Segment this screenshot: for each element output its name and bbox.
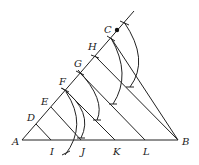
- label-h: H: [87, 41, 97, 52]
- arc-2: [111, 38, 122, 104]
- arc-3: [78, 70, 99, 120]
- segment-cb: [111, 38, 178, 140]
- label-e: E: [40, 96, 49, 107]
- parallel-hb: [95, 56, 178, 140]
- arc-4: [62, 88, 85, 138]
- label-g: G: [74, 58, 82, 69]
- label-k: K: [112, 146, 121, 157]
- arc-5: [65, 92, 77, 155]
- geometry-diagram: A B C D E F G H I J K L: [0, 0, 199, 165]
- label-c: C: [104, 24, 112, 35]
- point-c-dot: [115, 28, 119, 32]
- parallel-gl: [80, 73, 145, 140]
- parallel-di: [36, 124, 51, 140]
- label-d: D: [26, 112, 35, 123]
- label-b: B: [181, 136, 189, 147]
- label-f: F: [58, 76, 67, 87]
- label-j: J: [79, 146, 86, 157]
- label-i: I: [49, 146, 55, 157]
- tick-5: [61, 88, 69, 92]
- label-a: A: [11, 136, 19, 147]
- diagram-canvas: A B C D E F G H I J K L: [0, 0, 199, 165]
- label-l: L: [142, 146, 150, 157]
